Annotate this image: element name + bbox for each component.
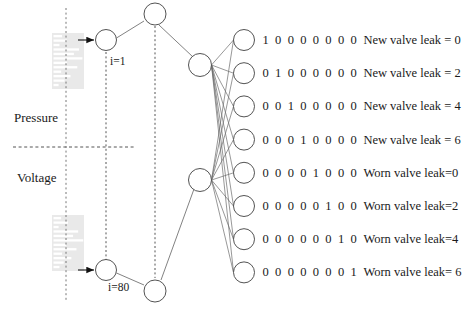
- output-description: Worn valve leak=4: [363, 232, 458, 246]
- hidden-node-bottom: [144, 280, 166, 302]
- index-first-label: i=1: [110, 55, 125, 67]
- signal-bar: [54, 39, 68, 41]
- output-description: New valve leak = 0: [363, 33, 460, 47]
- mid-node-top: [189, 54, 212, 77]
- signal-bar: [54, 71, 62, 73]
- hidden-node-top: [144, 3, 166, 25]
- signal-bar: [54, 239, 84, 241]
- signal-bar: [54, 221, 68, 223]
- signal-bar: [54, 266, 60, 268]
- output-description: Worn valve leak= 6: [363, 265, 461, 279]
- output-node-7: [234, 229, 255, 250]
- output-code: 0 1 0 0 0 0 0 0: [263, 66, 359, 80]
- output-label-row: 0 0 0 0 0 0 0 1Worn valve leak= 6: [263, 263, 462, 281]
- output-node-1: [234, 30, 255, 51]
- output-code: 0 0 0 1 0 0 0 0: [263, 133, 359, 147]
- output-code: 0 0 0 0 1 0 0 0: [263, 166, 359, 180]
- signal-bar: [54, 57, 83, 59]
- output-description: New valve leak = 6: [363, 133, 460, 147]
- signal-bar: [54, 62, 68, 64]
- edge-mid-top-to-output-2: [212, 65, 234, 73]
- output-description: Worn valve leak=2: [363, 199, 458, 213]
- output-label-row: 0 0 0 0 1 0 0 0Worn valve leak=0: [263, 164, 459, 182]
- output-description: New valve leak = 4: [363, 99, 460, 113]
- edge-input-first-to-hidden-top: [117, 21, 145, 38]
- output-code: 0 0 0 0 0 0 0 1: [263, 265, 359, 279]
- output-description: New valve leak = 2: [363, 66, 460, 80]
- signal-bar: [54, 44, 60, 46]
- signal-bar: [54, 84, 59, 86]
- signal-bar: [54, 261, 64, 263]
- signal-bar: [54, 248, 77, 250]
- signal-boxes-group: [52, 33, 84, 271]
- output-label-row: 0 0 0 1 0 0 0 0New valve leak = 6: [263, 131, 461, 149]
- output-code: 1 0 0 0 0 0 0 0: [263, 33, 359, 47]
- input-node-last: [96, 260, 117, 281]
- signal-bar: [54, 75, 71, 77]
- output-label-row: 0 1 0 0 0 0 0 0New valve leak = 2: [263, 64, 461, 82]
- edge-hidden-bottom-to-mid-bottom: [161, 189, 194, 280]
- pressure-label: Pressure: [14, 110, 58, 126]
- edge-hidden-top-to-mid-top: [159, 25, 193, 57]
- signal-bar: [54, 217, 62, 219]
- edge-mid-bottom-to-output-7: [212, 180, 234, 239]
- output-node-5: [234, 162, 255, 183]
- index-last-label: i=80: [108, 281, 129, 293]
- signal-bar: [54, 53, 74, 55]
- signal-bar: [54, 257, 72, 259]
- output-node-8: [234, 262, 255, 283]
- network-edges-group: [117, 21, 234, 285]
- voltage-label: Voltage: [17, 170, 56, 186]
- edge-mid-bottom-to-output-8: [212, 180, 234, 272]
- output-label-row: 0 0 1 0 0 0 0 0New valve leak = 4: [263, 97, 461, 115]
- output-code: 0 0 0 0 0 1 0 0: [263, 199, 359, 213]
- signal-bar: [54, 244, 67, 246]
- output-code: 0 0 1 0 0 0 0 0: [263, 99, 359, 113]
- network-nodes-group: [96, 3, 255, 302]
- network-diagram-canvas: Pressure Voltage i=1 i=80 1 0 0 0 0 0 0 …: [0, 0, 467, 310]
- output-label-row: 0 0 0 0 0 1 0 0Worn valve leak=2: [263, 197, 459, 215]
- output-node-6: [234, 196, 255, 217]
- signal-bar: [54, 66, 78, 68]
- output-node-4: [234, 129, 255, 150]
- input-node-first: [96, 30, 117, 51]
- output-description: Worn valve leak=0: [363, 166, 458, 180]
- signal-bar: [54, 235, 74, 237]
- output-code: 0 0 0 0 0 0 1 0: [263, 232, 359, 246]
- edge-mid-top-to-output-5: [212, 65, 234, 173]
- edge-mid-top-to-output-7: [212, 65, 234, 239]
- output-node-2: [234, 63, 255, 84]
- output-label-row: 0 0 0 0 0 0 1 0Worn valve leak=4: [263, 230, 459, 248]
- signal-bar: [54, 253, 63, 255]
- output-label-row: 1 0 0 0 0 0 0 0New valve leak = 0: [263, 31, 461, 49]
- signal-bar: [54, 226, 59, 228]
- signal-bar: [54, 35, 63, 37]
- signal-bar: [54, 79, 65, 81]
- output-node-3: [234, 96, 255, 117]
- mid-node-bottom: [189, 169, 212, 192]
- edge-mid-top-to-output-4: [212, 65, 234, 140]
